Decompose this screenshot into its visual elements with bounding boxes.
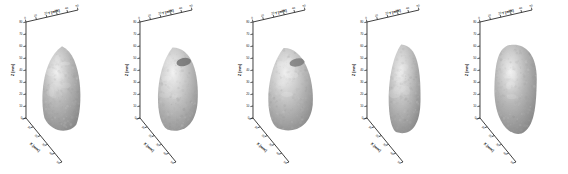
y-tick-label: 0 [251, 16, 254, 20]
y-tick [521, 10, 522, 12]
z-tick-label: 50 [474, 56, 478, 60]
z-tick-label: 40 [360, 68, 364, 72]
y-tick-label: 10 [147, 13, 151, 18]
y-tick-label: 40 [405, 6, 409, 11]
z-tick-label: 50 [246, 56, 250, 60]
z-tick-label: 40 [133, 68, 137, 72]
tuber-panel-3: 010203040506070800102030405001020304050Y… [227, 0, 341, 174]
y-tick [160, 15, 161, 17]
tuber-surface-5 [491, 39, 543, 138]
y-tick [418, 8, 419, 10]
x-tick-label: 10 [481, 125, 486, 130]
z-tick-label: 40 [474, 68, 478, 72]
z-axis-title: Z [mm] [125, 64, 129, 76]
y-tick [501, 15, 502, 17]
y-tick-label: 10 [374, 13, 378, 18]
y-tick-label: 50 [302, 3, 306, 8]
y-tick [366, 20, 367, 22]
y-tick-label: 50 [529, 3, 533, 8]
z-tick-label: 80 [133, 20, 137, 24]
y-tick-label: 50 [75, 3, 79, 8]
z-tick-label: 70 [360, 32, 364, 36]
z-tick-label: 60 [246, 44, 250, 48]
x-axis-title: X [mm] [483, 142, 495, 153]
y-tick-label: 40 [519, 6, 523, 11]
z-tick-label: 30 [474, 80, 478, 84]
z-tick-label: 50 [133, 56, 137, 60]
z-tick-label: 20 [246, 92, 250, 96]
y-tick [305, 8, 306, 10]
x-tick-label: 10 [27, 125, 32, 130]
y-tick [36, 17, 37, 19]
y-tick [490, 17, 491, 19]
z-tick-label: 70 [19, 32, 23, 36]
x-tick-label: 10 [140, 125, 145, 130]
x-axis-title: X [mm] [256, 142, 268, 153]
z-tick-label: 80 [19, 20, 23, 24]
z-tick-label: 30 [133, 80, 137, 84]
x-tick-label: 10 [368, 125, 373, 130]
y-tick-label: 10 [261, 13, 265, 18]
y-tick [77, 8, 78, 10]
tuber-plot-4: 010203040506070800102030405001020304050Y… [341, 0, 455, 174]
z-tick-label: 40 [19, 68, 23, 72]
tuber-panel-1: 010203040506070800102030405001020304050Y… [0, 0, 114, 174]
z-tick-label: 60 [474, 44, 478, 48]
x-tick-label: 50 [283, 160, 288, 165]
z-tick-label: 20 [474, 92, 478, 96]
y-tick [253, 20, 254, 22]
x-axis-title: X [mm] [370, 142, 382, 153]
z-tick-label: 80 [474, 20, 478, 24]
z-axis-title: Z [mm] [352, 64, 356, 76]
y-tick [294, 10, 295, 12]
z-tick-label: 10 [19, 104, 23, 108]
z-tick-label: 60 [19, 44, 23, 48]
figure-panel-strip: 010203040506070800102030405001020304050Y… [0, 0, 568, 174]
tuber-panel-2: 010203040506070800102030405001020304050Y… [114, 0, 228, 174]
z-axis-title: Z [mm] [465, 64, 469, 76]
z-tick-label: 50 [360, 56, 364, 60]
y-tick-label: 40 [65, 6, 69, 11]
y-tick-label: 0 [364, 16, 367, 20]
y-tick-label: 0 [478, 16, 481, 20]
z-tick-label: 10 [474, 104, 478, 108]
x-tick-label: 50 [396, 160, 401, 165]
tuber-surface-1 [37, 41, 87, 137]
z-tick-label: 30 [360, 80, 364, 84]
z-tick-label: 20 [133, 92, 137, 96]
y-tick-label: 40 [292, 6, 296, 11]
y-tick [67, 10, 68, 12]
y-tick [532, 8, 533, 10]
z-tick-label: 70 [133, 32, 137, 36]
y-tick [191, 8, 192, 10]
tuber-surface-3 [262, 43, 317, 135]
z-tick-label: 60 [133, 44, 137, 48]
z-tick-label: 20 [360, 92, 364, 96]
z-axis-title: Z [mm] [238, 64, 242, 76]
x-tick-label: 10 [254, 125, 259, 130]
z-tick-label: 70 [474, 32, 478, 36]
y-tick [149, 17, 150, 19]
tuber-surface-4 [380, 39, 425, 138]
y-tick-label: 10 [488, 13, 492, 18]
y-tick [387, 15, 388, 17]
z-tick-label: 60 [360, 44, 364, 48]
y-tick-label: 0 [137, 16, 140, 20]
y-tick [377, 17, 378, 19]
tuber-plot-1: 010203040506070800102030405001020304050Y… [0, 0, 114, 174]
z-tick-label: 10 [246, 104, 250, 108]
tuber-plot-5: 010203040506070800102030405001020304050Y… [454, 0, 568, 174]
y-tick [25, 20, 26, 22]
y-tick-label: 40 [178, 6, 182, 11]
x-axis-title: X [mm] [142, 142, 154, 153]
y-tick-label: 10 [33, 13, 37, 18]
z-tick-label: 40 [246, 68, 250, 72]
z-tick-label: 80 [246, 20, 250, 24]
x-axis-title: X [mm] [29, 142, 41, 153]
y-tick [263, 17, 264, 19]
z-tick-label: 20 [19, 92, 23, 96]
y-tick-label: 50 [189, 3, 193, 8]
x-tick-label: 50 [510, 160, 515, 165]
tuber-panel-4: 010203040506070800102030405001020304050Y… [341, 0, 455, 174]
x-tick-label: 50 [169, 160, 174, 165]
